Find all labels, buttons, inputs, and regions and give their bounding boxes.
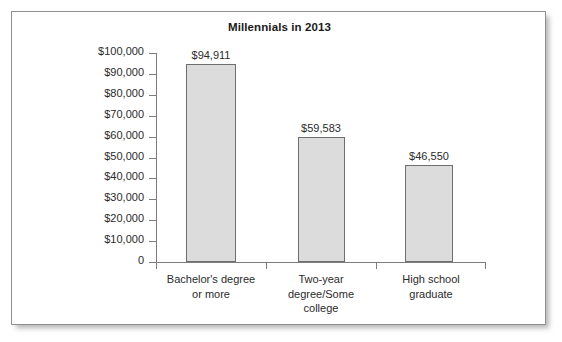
y-axis-tick-label: $80,000 — [104, 87, 144, 99]
category-label-line: Two-year — [261, 272, 381, 287]
y-axis-tick-label: $90,000 — [104, 66, 144, 78]
y-axis-tick-label: $70,000 — [104, 108, 144, 120]
y-axis-tick-mark — [149, 220, 156, 221]
y-axis-tick-label: $20,000 — [104, 212, 144, 224]
bar-high-school-graduate[interactable] — [405, 165, 453, 262]
y-axis-tick-mark — [149, 95, 156, 96]
category-label-line: High school — [371, 272, 491, 287]
x-axis-category-label-two-year: Two-year degree/Some college — [261, 272, 381, 316]
y-axis-tick-label: $40,000 — [104, 170, 144, 182]
x-axis-tick-mark — [156, 262, 157, 269]
y-axis-tick-mark — [149, 262, 156, 263]
y-axis-tick-label: $60,000 — [104, 129, 144, 141]
y-axis-tick-mark — [149, 199, 156, 200]
x-axis-line — [156, 262, 486, 263]
category-label-line: college — [261, 301, 381, 316]
chart-figure-frame: Millennials in 2013 $100,000 $90,000 $80… — [11, 11, 546, 325]
y-axis-tick-mark — [149, 53, 156, 54]
y-axis-tick-label: $100,000 — [98, 45, 144, 57]
bar-value-label: $94,911 — [171, 49, 251, 61]
y-axis-tick-mark — [149, 137, 156, 138]
bar-bachelors-degree-or-more[interactable] — [186, 64, 236, 262]
category-label-line: graduate — [371, 287, 491, 302]
plot-area: $100,000 $90,000 $80,000 $70,000 $60,000… — [146, 53, 486, 263]
y-axis-tick-mark — [149, 178, 156, 179]
y-axis-tick-label: $50,000 — [104, 150, 144, 162]
y-axis-tick-mark — [149, 116, 156, 117]
x-axis-tick-mark — [485, 262, 486, 269]
x-axis-category-label-high-school: High school graduate — [371, 272, 491, 301]
y-axis-tick-mark — [149, 241, 156, 242]
y-axis-line — [156, 53, 157, 263]
category-label-line: Bachelor's degree — [151, 272, 271, 287]
x-axis-category-label-bachelors: Bachelor's degree or more — [151, 272, 271, 301]
y-axis-tick-mark — [149, 74, 156, 75]
y-axis-tick-label: $30,000 — [104, 191, 144, 203]
y-axis-tick-label: 0 — [138, 254, 144, 266]
bar-two-year-degree-some-college[interactable] — [298, 137, 345, 262]
y-axis-tick-mark — [149, 158, 156, 159]
x-axis-tick-mark — [266, 262, 267, 269]
y-axis-tick-label: $10,000 — [104, 233, 144, 245]
category-label-line: or more — [151, 287, 271, 302]
x-axis-tick-mark — [376, 262, 377, 269]
bar-value-label: $59,583 — [281, 122, 361, 134]
bar-value-label: $46,550 — [389, 150, 469, 162]
chart-title: Millennials in 2013 — [12, 21, 547, 33]
category-label-line: degree/Some — [261, 287, 381, 302]
